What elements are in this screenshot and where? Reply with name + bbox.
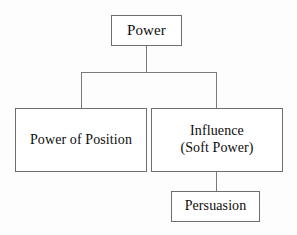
node-persuasion[interactable]: Persuasion	[171, 191, 260, 222]
node-influence-label: Influence	[152, 123, 282, 140]
node-power-of-position-label: Power of Position	[16, 132, 146, 149]
connector-power-to-split	[146, 46, 147, 73]
diagram-canvas: Power Power of Position Influence (Soft …	[0, 0, 297, 235]
node-influence[interactable]: Influence (Soft Power)	[151, 108, 283, 172]
node-influence-sublabel: (Soft Power)	[152, 140, 282, 157]
connector-split-to-influence	[216, 72, 217, 109]
node-power[interactable]: Power	[111, 15, 182, 46]
connector-split-bar	[81, 72, 217, 73]
connector-split-to-power-of-position	[81, 72, 82, 109]
connector-influence-to-persuasion	[216, 172, 217, 192]
node-power-label: Power	[112, 22, 181, 40]
node-persuasion-label: Persuasion	[172, 198, 259, 215]
node-power-of-position[interactable]: Power of Position	[15, 108, 147, 172]
